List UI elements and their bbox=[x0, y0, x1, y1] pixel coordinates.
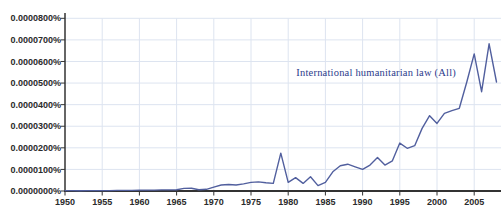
y-tick-label: 0.0000300% bbox=[10, 121, 61, 131]
x-tick-label: 1965 bbox=[167, 197, 187, 207]
x-tick-label: 1995 bbox=[390, 197, 410, 207]
x-tick-label: 1980 bbox=[278, 197, 298, 207]
x-tick-label: 1950 bbox=[55, 197, 75, 207]
frequency-line-series bbox=[65, 44, 497, 191]
x-tick-label: 1975 bbox=[241, 197, 261, 207]
series-polyline bbox=[65, 44, 497, 191]
y-tick-label: 0.0000100% bbox=[10, 165, 61, 175]
gridlines bbox=[65, 18, 501, 191]
x-tick-label: 1990 bbox=[353, 197, 373, 207]
x-tick-label: 2005 bbox=[464, 197, 484, 207]
x-tick-label: 1955 bbox=[92, 197, 112, 207]
x-axis-labels: 1950 1955 1960 1965 1970 1975 1980 1985 … bbox=[55, 197, 484, 207]
y-axis-labels: 0.0000800% 0.0000700% 0.0000600% 0.00005… bbox=[10, 13, 61, 196]
y-tick-label: 0.0000500% bbox=[10, 78, 61, 88]
legend-label: International humanitarian law (All) bbox=[296, 67, 456, 79]
y-tick-label: 0.0000700% bbox=[10, 35, 61, 45]
y-tick-label: 0.0000000% bbox=[10, 186, 61, 196]
x-tick-label: 1985 bbox=[315, 197, 335, 207]
y-tick-label: 0.0000200% bbox=[10, 143, 61, 153]
y-tick-label: 0.0000600% bbox=[10, 57, 61, 67]
x-tick-label: 1960 bbox=[129, 197, 149, 207]
ngram-viewer-chart: 0.0000800% 0.0000700% 0.0000600% 0.00005… bbox=[0, 0, 501, 217]
y-tick-label: 0.0000800% bbox=[10, 13, 61, 23]
y-tick-label: 0.0000400% bbox=[10, 100, 61, 110]
x-tick-label: 1970 bbox=[204, 197, 224, 207]
ngram-line-chart: 0.0000800% 0.0000700% 0.0000600% 0.00005… bbox=[0, 0, 501, 217]
x-tick-label: 2000 bbox=[427, 197, 447, 207]
